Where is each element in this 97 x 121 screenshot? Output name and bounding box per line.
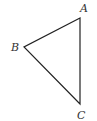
vertex-label-c: C <box>77 109 86 121</box>
vertex-label-b: B <box>10 41 19 54</box>
triangle-abc <box>24 18 80 104</box>
triangle-diagram: A B C <box>0 0 97 121</box>
vertex-label-a: A <box>79 2 88 15</box>
